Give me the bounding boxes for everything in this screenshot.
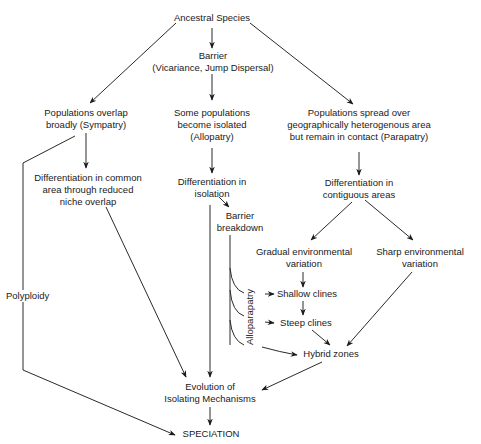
edge-sharp-hybrid xyxy=(347,272,412,346)
edge-to-hybrid xyxy=(262,347,297,355)
node-text: Gradual environmental xyxy=(252,246,356,258)
node-isolating-mechanisms: Evolution of Isolating Mechanisms xyxy=(160,381,260,405)
node-text: niche overlap xyxy=(28,196,148,208)
node-text: broadly (Sympatry) xyxy=(26,119,146,131)
node-text: (Allopatry) xyxy=(162,131,262,143)
node-text: (Vicariance, Jump Dispersal) xyxy=(143,62,283,74)
node-text: Barrier xyxy=(210,210,270,222)
node-text: Evolution of xyxy=(160,381,260,393)
edge-steep-hybrid xyxy=(312,330,330,345)
node-text: variation xyxy=(370,258,470,270)
edge-label-text: Polyploidy xyxy=(6,290,42,302)
edge-alloparapatry-steep xyxy=(230,290,244,316)
node-text: Shallow clines xyxy=(272,288,342,300)
edge-hybrid-isolating xyxy=(262,362,322,390)
node-gradual-variation: Gradual environmental variation xyxy=(252,246,356,270)
node-differentiation-contiguous: Differentiation in contiguous areas xyxy=(314,177,404,201)
edge-diffcommon-isolating xyxy=(106,207,186,377)
node-text: Differentiation in xyxy=(314,177,404,189)
edge-diffcontiguous-sharp xyxy=(365,200,413,240)
node-differentiation-common: Differentiation in common area through r… xyxy=(28,172,148,208)
node-text: Sharp environmental xyxy=(370,246,470,258)
node-text: breakdown xyxy=(210,222,270,234)
edge-to-steep xyxy=(265,322,274,323)
node-steep-clines: Steep clines xyxy=(276,317,336,329)
node-text: contiguous areas xyxy=(314,189,404,201)
node-ancestral-species: Ancestral Species xyxy=(162,12,262,24)
node-speciation: SPECIATION xyxy=(172,428,250,440)
node-text: Steep clines xyxy=(276,317,336,329)
node-text: geographically heterogenous area xyxy=(284,119,434,131)
edge-label-polyploidy: Polyploidy xyxy=(6,290,42,302)
edge-label-text: Alloparapatry xyxy=(244,289,255,345)
node-allopatry: Some populations become isolated (Allopa… xyxy=(162,107,262,143)
edge-alloparapatry-shallow xyxy=(230,268,244,293)
node-sympatry: Populations overlap broadly (Sympatry) xyxy=(26,107,146,131)
edge-alloparapatry-hybrid-curve xyxy=(230,320,244,345)
node-barrier: Barrier (Vicariance, Jump Dispersal) xyxy=(143,50,283,74)
node-text: Populations overlap xyxy=(26,107,146,119)
node-text: but remain in contact (Parapatry) xyxy=(284,131,434,143)
node-text: Populations spread over xyxy=(284,107,434,119)
edge-label-alloparapatry: Alloparapatry xyxy=(244,289,255,345)
node-differentiation-isolation: Differentiation in isolation xyxy=(167,176,257,200)
edge-diffcontiguous-gradual xyxy=(311,202,352,240)
node-barrier-breakdown: Barrier breakdown xyxy=(210,210,270,234)
node-text: Some populations xyxy=(162,107,262,119)
node-text: variation xyxy=(252,258,356,270)
node-parapatry: Populations spread over geographically h… xyxy=(284,107,434,143)
node-shallow-clines: Shallow clines xyxy=(272,288,342,300)
node-text: Isolating Mechanisms xyxy=(160,393,260,405)
node-sharp-variation: Sharp environmental variation xyxy=(370,246,470,270)
node-text: isolation xyxy=(167,188,257,200)
node-text: Hybrid zones xyxy=(300,348,362,360)
node-hybrid-zones: Hybrid zones xyxy=(300,348,362,360)
node-text: become isolated xyxy=(162,119,262,131)
speciation-diagram: Ancestral Species Barrier (Vicariance, J… xyxy=(0,0,481,444)
node-text: Differentiation in xyxy=(167,176,257,188)
node-text: Differentiation in common xyxy=(28,172,148,184)
node-text: Barrier xyxy=(143,50,283,62)
node-text: Ancestral Species xyxy=(162,12,262,24)
node-text: area through reduced xyxy=(28,184,148,196)
node-text: SPECIATION xyxy=(172,428,250,440)
